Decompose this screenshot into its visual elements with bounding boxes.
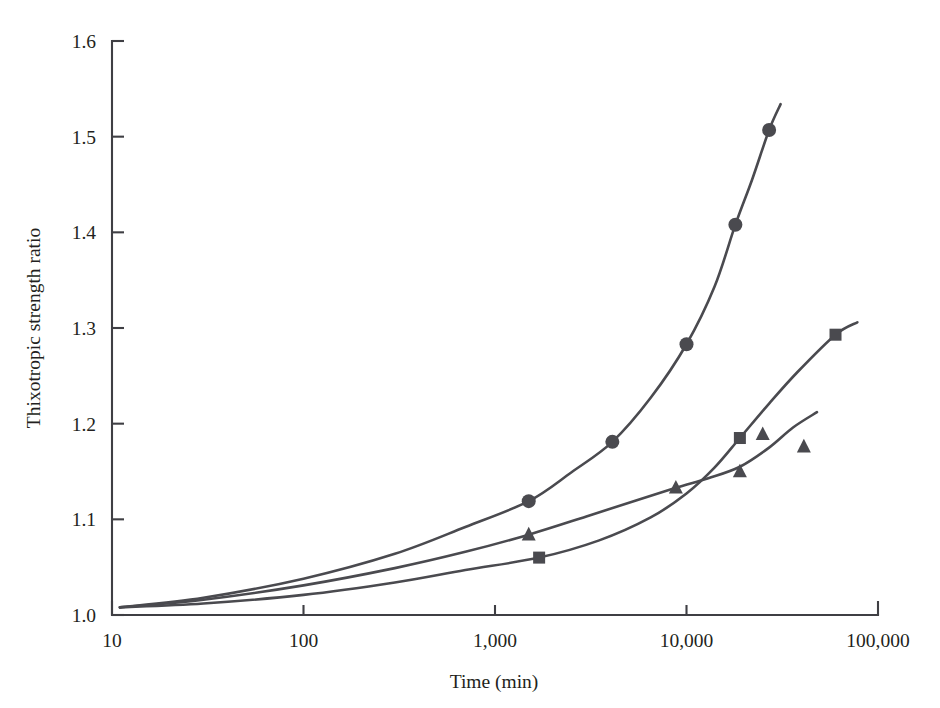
y-tick-label: 1.4 <box>72 222 97 243</box>
series-triangle <box>120 412 817 607</box>
y-tick-label: 1.1 <box>72 509 96 530</box>
y-tick-label: 1.5 <box>72 127 96 148</box>
data-point-triangle <box>756 426 770 440</box>
data-point-square <box>830 329 842 341</box>
series-curve <box>120 104 781 607</box>
chart-figure: 101001,00010,000100,000 1.01.11.21.31.41… <box>0 0 940 708</box>
data-point-circle <box>728 218 742 232</box>
y-tick-label: 1.2 <box>72 414 96 435</box>
x-tick-label: 1,000 <box>473 630 517 651</box>
x-axis-title: Time (min) <box>450 671 539 693</box>
y-tick-label: 1.6 <box>72 31 97 52</box>
thixotropic-strength-ratio-chart: 101001,00010,000100,000 1.01.11.21.31.41… <box>0 0 940 708</box>
data-point-circle <box>762 123 776 137</box>
data-point-circle <box>522 494 536 508</box>
data-point-square <box>533 552 545 564</box>
data-point-circle <box>680 337 694 351</box>
series-square <box>120 322 857 607</box>
series-circle <box>120 104 781 607</box>
x-tick-label: 10,000 <box>660 630 714 651</box>
y-axis-title: Thixotropic strength ratio <box>23 228 44 428</box>
data-point-triangle <box>733 464 747 478</box>
y-tick-label: 1.0 <box>72 605 96 626</box>
y-axis-ticks: 1.01.11.21.31.41.51.6 <box>72 31 124 626</box>
x-tick-label: 100,000 <box>846 630 909 651</box>
data-point-triangle <box>797 439 811 453</box>
data-series <box>120 104 857 607</box>
data-point-circle <box>605 435 619 449</box>
data-point-square <box>734 432 746 444</box>
x-tick-label: 10 <box>102 630 122 651</box>
x-tick-label: 100 <box>289 630 318 651</box>
series-curve <box>120 322 857 607</box>
y-tick-label: 1.3 <box>72 318 96 339</box>
series-curve <box>120 412 817 607</box>
x-axis-ticks: 101001,00010,000100,000 <box>102 601 909 651</box>
